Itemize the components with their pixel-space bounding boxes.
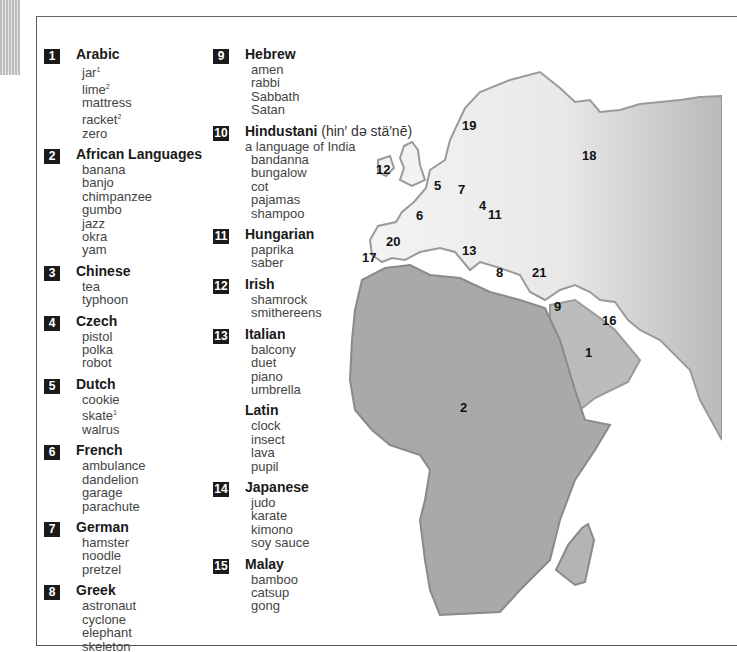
word: ambulance bbox=[82, 459, 214, 472]
map-label: 2 bbox=[460, 400, 467, 415]
legend-entry-chinese: 3 Chinese tea typhoon bbox=[44, 263, 214, 307]
map-label: 7 bbox=[458, 182, 465, 197]
number-badge: 4 bbox=[44, 316, 60, 331]
language-name: Japanese bbox=[245, 479, 383, 496]
number-badge: 3 bbox=[44, 266, 60, 281]
word: balcony bbox=[251, 343, 383, 356]
word: paprika bbox=[251, 243, 383, 256]
word: typhoon bbox=[82, 293, 214, 306]
word: shamrock bbox=[251, 293, 383, 306]
word: Sabbath bbox=[251, 90, 383, 103]
decorative-stripes bbox=[0, 0, 20, 75]
legend-column-1: 1 Arabic jar1 lime2 mattress racket2 zer… bbox=[44, 46, 214, 652]
number-badge: 11 bbox=[213, 229, 229, 244]
legend-entry-hebrew: 9 Hebrew amen rabbi Sabbath Satan bbox=[213, 46, 383, 117]
legend-entry-latin: Latin clock insect lava pupil bbox=[213, 402, 383, 473]
number-badge: 1 bbox=[44, 49, 60, 64]
language-name: Arabic bbox=[76, 46, 214, 63]
language-name: Hebrew bbox=[245, 46, 383, 63]
word: hamster bbox=[82, 536, 214, 549]
word: zero bbox=[82, 127, 214, 140]
number-badge: 9 bbox=[213, 49, 229, 64]
legend-entry-italian: 13 Italian balcony duet piano umbrella bbox=[213, 326, 383, 397]
map-label: 11 bbox=[488, 207, 502, 222]
number-badge: 12 bbox=[213, 279, 229, 294]
word: mattress bbox=[82, 96, 214, 109]
great-britain bbox=[400, 142, 425, 186]
word: jar1 bbox=[82, 63, 214, 80]
language-name: Czech bbox=[76, 313, 214, 330]
word: lime2 bbox=[82, 80, 214, 97]
word: pistol bbox=[82, 330, 214, 343]
legend-entry-dutch: 5 Dutch cookie skate1 walrus bbox=[44, 376, 214, 437]
word: skeleton bbox=[82, 640, 214, 652]
word: saber bbox=[251, 256, 383, 269]
madagascar bbox=[556, 524, 594, 585]
word: umbrella bbox=[251, 383, 383, 396]
word: soy sauce bbox=[251, 536, 383, 549]
number-badge: 5 bbox=[44, 379, 60, 394]
language-name: Dutch bbox=[76, 376, 214, 393]
legend-entry-hindustani: 10 Hindustani (hin′ də stä′nē) a languag… bbox=[213, 123, 383, 220]
word: pretzel bbox=[82, 563, 214, 576]
word: cookie bbox=[82, 393, 214, 406]
number-badge: 10 bbox=[213, 126, 229, 141]
number-badge: 15 bbox=[213, 559, 229, 574]
legend-column-2: 9 Hebrew amen rabbi Sabbath Satan 10 Hin… bbox=[213, 46, 383, 619]
word: rabbi bbox=[251, 76, 383, 89]
pronunciation: (hin′ də stä′nē) bbox=[321, 123, 412, 139]
word: judo bbox=[251, 496, 383, 509]
legend-entry-malay: 15 Malay bamboo catsup gong bbox=[213, 556, 383, 613]
number-badge: 13 bbox=[213, 329, 229, 344]
language-name: Italian bbox=[245, 326, 383, 343]
word: skate1 bbox=[82, 406, 214, 423]
map-label: 18 bbox=[582, 148, 596, 163]
map-label: 21 bbox=[532, 265, 546, 280]
legend-entry-greek: 8 Greek astronaut cyclone elephant skele… bbox=[44, 582, 214, 652]
word: banjo bbox=[82, 176, 214, 189]
word: astronaut bbox=[82, 599, 214, 612]
word: duet bbox=[251, 356, 383, 369]
word: dandelion bbox=[82, 473, 214, 486]
legend-entry-czech: 4 Czech pistol polka robot bbox=[44, 313, 214, 370]
word: lava bbox=[251, 446, 383, 459]
number-badge: 14 bbox=[213, 482, 229, 497]
legend-entry-african: 2 African Languages banana banjo chimpan… bbox=[44, 146, 214, 257]
word: Satan bbox=[251, 103, 383, 116]
word: elephant bbox=[82, 626, 214, 639]
world-map bbox=[330, 30, 722, 630]
language-name: Greek bbox=[76, 582, 214, 599]
language-name: Chinese bbox=[76, 263, 214, 280]
number-badge: 8 bbox=[44, 585, 60, 600]
map-label: 8 bbox=[496, 265, 503, 280]
language-name: German bbox=[76, 519, 214, 536]
word: gumbo bbox=[82, 203, 214, 216]
word: banana bbox=[82, 163, 214, 176]
word: walrus bbox=[82, 423, 214, 436]
legend-entry-arabic: 1 Arabic jar1 lime2 mattress racket2 zer… bbox=[44, 46, 214, 140]
map-label: 1 bbox=[585, 345, 592, 360]
language-name: Latin bbox=[245, 402, 383, 419]
word: yam bbox=[82, 243, 214, 256]
map-label: 16 bbox=[602, 313, 616, 328]
word: noodle bbox=[82, 549, 214, 562]
word: catsup bbox=[251, 586, 383, 599]
word: chimpanzee bbox=[82, 190, 214, 203]
word: shampoo bbox=[251, 207, 383, 220]
map-label: 9 bbox=[554, 299, 561, 314]
word: karate bbox=[251, 509, 383, 522]
word: smithereens bbox=[251, 306, 383, 319]
language-name: Hindustani (hin′ də stä′nē) bbox=[245, 123, 383, 140]
number-badge: 6 bbox=[44, 445, 60, 460]
legend-entry-french: 6 French ambulance dandelion garage para… bbox=[44, 442, 214, 513]
word: amen bbox=[251, 63, 383, 76]
word: bungalow bbox=[251, 166, 383, 179]
language-name: Malay bbox=[245, 556, 383, 573]
word: garage bbox=[82, 486, 214, 499]
legend-entry-german: 7 German hamster noodle pretzel bbox=[44, 519, 214, 576]
map-label: 20 bbox=[386, 234, 400, 249]
word: okra bbox=[82, 230, 214, 243]
word: gong bbox=[251, 599, 383, 612]
word: piano bbox=[251, 370, 383, 383]
word: pupil bbox=[251, 460, 383, 473]
